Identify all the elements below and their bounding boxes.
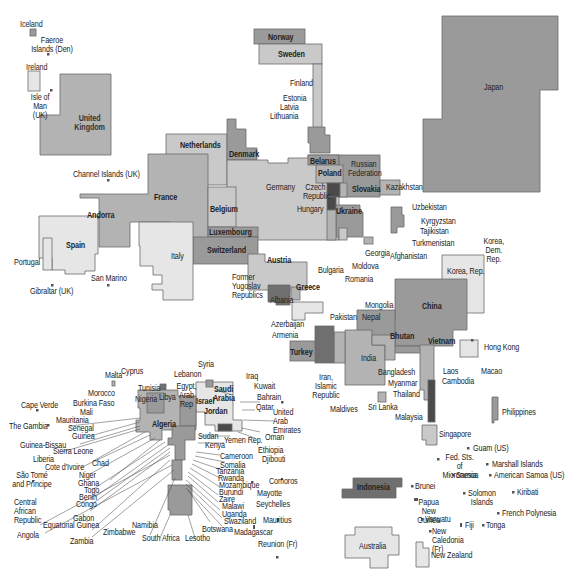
label-cyprus: Cyprus: [121, 367, 143, 376]
label-thailand: Thailand: [393, 390, 420, 399]
region-south-africa: [168, 485, 192, 515]
region-yemen: [218, 424, 232, 431]
label-estonia: Estonia: [283, 94, 306, 103]
label-turkey: Turkey: [290, 348, 313, 357]
label-nepal: Nepal: [362, 313, 380, 322]
label-guam: Guam (US): [473, 444, 509, 453]
label-isle-of-man: Isle of Man (UK): [26, 93, 54, 120]
label-iceland: Iceland: [20, 20, 43, 29]
label-korea-dem: Korea, Dem. Rep.: [478, 237, 510, 264]
label-madagascar: Madagascar: [234, 528, 273, 537]
label-gibraltar: Gibraltar (UK): [30, 287, 73, 296]
region-sri-lanka: [378, 392, 386, 402]
label-algeria: Algeria: [152, 420, 176, 429]
region-greece: [292, 302, 323, 320]
label-ireland: Ireland: [26, 63, 47, 72]
label-germany: Germany: [266, 183, 295, 192]
label-china: China: [422, 302, 442, 311]
region-pakistan: [334, 332, 345, 363]
label-faeroe: Faeroe Islands (Den): [30, 36, 74, 54]
label-bulgaria: Bulgaria: [318, 266, 344, 275]
label-san-marino: San Marino: [91, 274, 127, 283]
label-lesotho: Lesotho: [185, 534, 210, 543]
label-yemen: Yemen Rep.: [224, 436, 263, 445]
label-brunei: Brunei: [415, 482, 435, 491]
label-kyrgyzstan: Kyrgyzstan: [421, 217, 456, 226]
label-nigeria: Nigeria: [135, 395, 157, 404]
label-bahrain: Bahrain: [257, 393, 281, 402]
label-ukraine: Ukraine: [336, 207, 362, 216]
label-armenia: Armenia: [272, 331, 298, 340]
label-switzerland: Switzerland: [207, 246, 246, 255]
label-congo: Congo: [76, 500, 97, 509]
label-belgium: Belgium: [210, 205, 238, 214]
label-chad: Chad: [92, 459, 109, 468]
label-latvia: Latvia: [280, 103, 299, 112]
region-iceland: [30, 29, 36, 36]
region-slovakia: [340, 183, 347, 197]
label-new-caledonia: New Caledonia (Fr): [432, 527, 471, 554]
label-saudi: Saudi Arabia: [213, 385, 234, 403]
label-djibouti: Djibouti: [262, 455, 285, 464]
label-czech: Czech Republic: [303, 183, 328, 201]
label-indonesia: Indonesia: [357, 483, 390, 492]
label-india: India: [361, 354, 376, 363]
label-swaziland: Swaziland: [224, 517, 256, 526]
region-portugal: [43, 238, 52, 270]
label-angola: Angola: [17, 531, 39, 540]
region-singapore: [422, 425, 437, 445]
label-turkmenistan: Turkmenistan: [412, 239, 454, 248]
label-morocco: Morocco: [88, 389, 115, 398]
region-central-asia: [391, 207, 404, 233]
label-samoa: Samoa: [456, 471, 478, 480]
label-romania: Romania: [345, 275, 373, 284]
label-afghanistan: Afghanistan: [390, 252, 427, 261]
label-cameroon: Cameroon: [220, 452, 253, 461]
region-georgia: [364, 237, 373, 244]
label-hong-kong: Hong Kong: [484, 343, 519, 352]
label-andorra: Andorra: [87, 211, 114, 220]
label-albania: Albania: [270, 296, 293, 305]
label-netherlands: Netherlands: [180, 141, 221, 150]
label-kenya: Kenya: [205, 441, 225, 450]
label-sri-lanka: Sri Lanka: [368, 403, 398, 412]
label-kiribati: Kiribati: [517, 488, 538, 497]
label-kuwait: Kuwait: [254, 382, 275, 391]
label-mayotte: Mayotte: [257, 489, 282, 498]
label-bhutan: Bhutan: [390, 332, 414, 341]
label-korea-rep: Korea, Rep.: [447, 267, 484, 276]
region-japan: [423, 16, 558, 192]
label-american-samoa: American Samoa (US): [494, 471, 564, 480]
label-reunion: Reunion (Fr): [258, 540, 297, 549]
region-east-africa: [168, 426, 195, 460]
label-vietnam: Vietnam: [428, 337, 455, 346]
region-moldova: [327, 210, 336, 240]
label-austria: Austria: [267, 256, 291, 265]
label-gambia: The Gambia: [9, 422, 48, 431]
label-oman: Oman: [265, 433, 284, 442]
label-cape-verde: Cape Verde: [21, 401, 58, 410]
label-malta: Malta: [105, 371, 122, 380]
label-channel-islands: Channel Islands (UK): [73, 170, 140, 179]
label-comoros: Comoros: [269, 477, 298, 486]
label-spain: Spain: [66, 241, 85, 250]
label-japan: Japan: [484, 83, 503, 92]
label-namibia: Namibia: [132, 521, 158, 530]
label-georgia: Georgia: [365, 249, 390, 258]
label-sweden: Sweden: [278, 50, 305, 59]
label-tunisia: Tunisia: [138, 384, 160, 393]
label-maldives: Maldives: [330, 405, 358, 414]
region-hong-kong: [460, 340, 478, 357]
label-belarus: Belarus: [310, 157, 336, 166]
label-lithuania: Lithuania: [270, 112, 298, 121]
label-uk: United Kingdom: [72, 114, 107, 132]
label-solomon: Solomon Islands: [467, 489, 497, 507]
label-lebanon: Lebanon: [174, 370, 201, 379]
label-zambia: Zambia: [70, 537, 93, 546]
label-laos: Laos: [443, 367, 458, 376]
label-egypt: Egypt, Arab Rep: [175, 382, 198, 409]
label-uzbekistan: Uzbekistan: [412, 203, 447, 212]
label-uae: United Arab Emirates: [273, 408, 299, 435]
label-portugal: Portugal: [14, 258, 40, 267]
label-philippines: Philippines: [502, 408, 536, 417]
